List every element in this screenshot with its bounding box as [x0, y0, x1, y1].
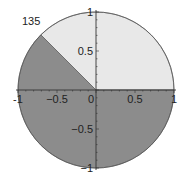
x-tick-label: −0.5: [46, 93, 68, 105]
pie-chart: -1−0.500.51−1−0.50.51 135: [0, 0, 182, 180]
y-tick-label: −0.5: [71, 123, 93, 135]
y-tick-label: −1: [80, 162, 93, 174]
x-tick-label: 1: [171, 93, 177, 105]
x-tick-label: 0.5: [127, 93, 142, 105]
angle-annotation: 135: [22, 15, 40, 27]
axes: [16, 10, 176, 170]
y-tick-label: 0.5: [78, 45, 93, 57]
x-tick-label: -1: [13, 93, 23, 105]
x-tick-label: 0: [88, 93, 94, 105]
y-tick-label: 1: [87, 6, 93, 18]
